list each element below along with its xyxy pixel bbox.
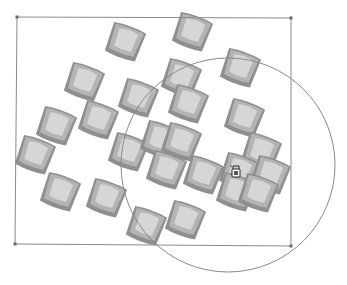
corner-handle[interactable] [14, 243, 17, 246]
tile[interactable] [62, 61, 105, 104]
drawing-canvas[interactable] [0, 0, 347, 285]
tile[interactable] [124, 205, 167, 248]
tile[interactable] [222, 97, 265, 140]
tile[interactable] [38, 171, 81, 214]
tile[interactable] [163, 199, 206, 242]
corner-handle[interactable] [290, 17, 293, 20]
tile[interactable] [116, 77, 159, 120]
tile[interactable] [170, 11, 213, 54]
tile[interactable] [106, 131, 149, 174]
corner-handle[interactable] [290, 245, 293, 248]
corner-handle[interactable] [16, 16, 19, 19]
tile[interactable] [84, 177, 127, 220]
tile[interactable] [218, 47, 261, 90]
tiles-layer [13, 11, 291, 248]
tile[interactable] [103, 21, 146, 64]
tile[interactable] [76, 99, 119, 142]
